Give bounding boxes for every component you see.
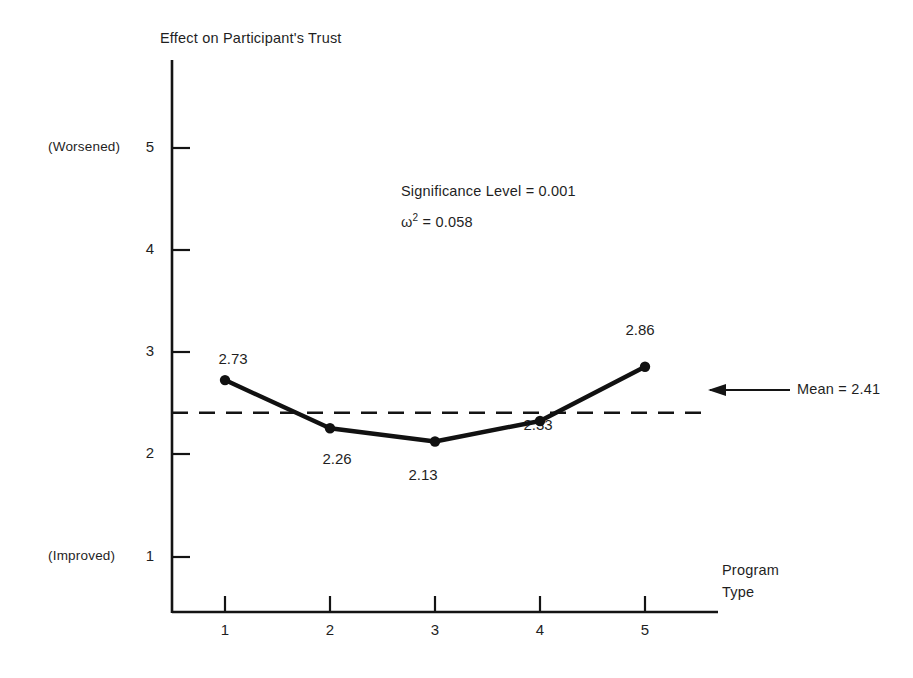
chart-figure: Effect on Participant's Trust (Worsened)…: [0, 0, 913, 678]
series-line: [225, 367, 645, 442]
plot-area: [0, 0, 913, 678]
data-point-marker-1: [220, 375, 230, 385]
series-markers: [220, 362, 650, 447]
data-point-marker-3: [430, 436, 440, 446]
y-axis-ticks: [172, 148, 190, 557]
mean-arrow-icon: [708, 384, 790, 396]
data-point-marker-5: [640, 362, 650, 372]
x-axis-ticks: [225, 596, 645, 612]
data-point-marker-4: [535, 416, 545, 426]
data-point-marker-2: [325, 423, 335, 433]
